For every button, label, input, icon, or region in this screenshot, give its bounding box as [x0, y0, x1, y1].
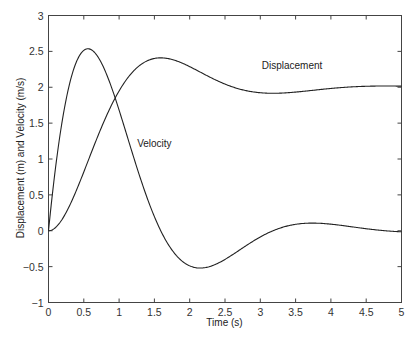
x-tick-label: 3.5 — [288, 306, 303, 318]
annotation-velocity: Velocity — [137, 138, 171, 149]
chart: 00.511.522.533.544.55 −1−0.500.511.522.5… — [0, 0, 417, 342]
y-tick-label: 0.5 — [29, 189, 44, 201]
displacement-curve — [49, 58, 402, 231]
x-tick-label: 5 — [399, 306, 405, 318]
y-axis-ticks: −1−0.500.511.522.53 — [23, 10, 402, 309]
y-tick-label: 3 — [38, 10, 44, 22]
x-tick-label: 1.5 — [147, 306, 162, 318]
y-tick-label: 1 — [38, 153, 44, 165]
y-axis-label: Displacement (m) and Velocity (m/s) — [15, 78, 26, 239]
x-tick-label: 0 — [46, 306, 52, 318]
y-tick-label: 0 — [38, 225, 44, 237]
x-tick-label: 4 — [328, 306, 334, 318]
annotation-displacement: Displacement — [262, 60, 323, 71]
y-tick-label: −0.5 — [23, 261, 44, 273]
x-tick-label: 2 — [187, 306, 193, 318]
y-tick-label: −1 — [32, 297, 44, 309]
y-tick-label: 1.5 — [29, 117, 44, 129]
annotations: DisplacementVelocity — [137, 60, 322, 148]
x-tick-label: 1 — [116, 306, 122, 318]
y-tick-label: 2.5 — [29, 45, 44, 57]
curves — [49, 49, 402, 268]
x-axis-ticks: 00.511.522.533.544.55 — [46, 16, 405, 318]
y-tick-label: 2 — [38, 81, 44, 93]
x-tick-label: 4.5 — [359, 306, 374, 318]
x-axis-label: Time (s) — [206, 317, 242, 328]
x-tick-label: 0.5 — [76, 306, 91, 318]
x-tick-label: 2.5 — [218, 306, 233, 318]
velocity-curve — [49, 49, 402, 268]
x-tick-label: 3 — [257, 306, 263, 318]
